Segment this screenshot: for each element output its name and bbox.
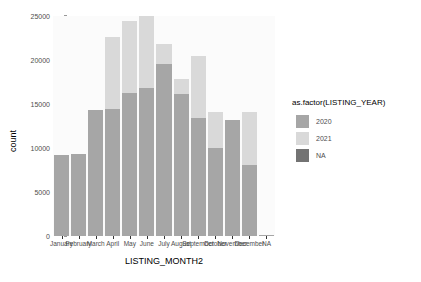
bar-group[interactable] <box>121 16 138 236</box>
bar-group[interactable] <box>173 16 190 236</box>
legend-entry[interactable]: 2020 <box>292 113 418 130</box>
bar-segment[interactable] <box>122 21 137 93</box>
bar-segment[interactable] <box>139 88 154 236</box>
bar-group[interactable] <box>104 16 121 236</box>
bar-segment[interactable] <box>71 154 86 236</box>
x-axis-tick-mark <box>266 236 267 239</box>
plot-panel <box>53 16 275 236</box>
bar-group[interactable] <box>224 16 241 236</box>
legend-entries: 20202021NA <box>292 113 418 164</box>
legend-swatch <box>296 115 309 128</box>
y-axis-tick-label: 15000 <box>31 101 50 108</box>
bar-segment[interactable] <box>242 112 257 165</box>
x-axis-tick-mark <box>198 236 199 239</box>
x-axis-tick-mark <box>232 236 233 239</box>
x-axis-tick-label: May <box>124 240 136 247</box>
bar-segment[interactable] <box>174 79 189 95</box>
bar-group[interactable] <box>258 16 275 236</box>
x-axis-tick-mark <box>147 236 148 239</box>
legend-label: NA <box>316 152 326 159</box>
bar-group[interactable] <box>70 16 87 236</box>
legend: as.factor(LISTING_YEAR) 20202021NA <box>292 98 418 164</box>
x-axis-tick-mark <box>249 236 250 239</box>
x-axis-tick-labels: JanuaryFebruaryMarchAprilMayJuneJulyAugu… <box>53 240 275 254</box>
x-axis-tick-label: December <box>234 240 264 247</box>
legend-label: 2021 <box>316 135 332 142</box>
legend-swatch <box>296 132 309 145</box>
bar-group[interactable] <box>53 16 70 236</box>
x-axis-tick-mark <box>79 236 80 239</box>
x-axis-tick-mark <box>181 236 182 239</box>
y-axis-tick-label: 25000 <box>31 13 50 20</box>
x-axis-tick-mark <box>215 236 216 239</box>
bar-group[interactable] <box>207 16 224 236</box>
x-axis-title: LISTING_MONTH2 <box>53 256 275 266</box>
bar-segment[interactable] <box>105 37 120 109</box>
legend-label: 2020 <box>316 118 332 125</box>
x-axis-tick-mark <box>113 236 114 239</box>
y-axis-tick-label: 20000 <box>31 57 50 64</box>
bar-segment[interactable] <box>174 94 189 236</box>
bar-segment[interactable] <box>156 44 171 63</box>
chart-root: count 0500010000150002000025000 JanuaryF… <box>0 0 421 282</box>
legend-entry[interactable]: 2021 <box>292 130 418 147</box>
y-axis-ticks: 0500010000150002000025000 <box>14 0 50 282</box>
bar-segment[interactable] <box>54 155 69 236</box>
bar-segment[interactable] <box>191 56 206 118</box>
y-axis-tick-label: 0 <box>46 233 50 240</box>
legend-swatch <box>296 149 309 162</box>
x-axis-tick-mark <box>130 236 131 239</box>
x-axis-tick-mark <box>96 236 97 239</box>
bar-segment[interactable] <box>208 148 223 236</box>
legend-entry[interactable]: NA <box>292 147 418 164</box>
x-axis-tick-label: March <box>87 240 105 247</box>
bar-segment[interactable] <box>88 110 103 236</box>
bar-segment[interactable] <box>122 93 137 236</box>
bar-group[interactable] <box>155 16 172 236</box>
bar-segment[interactable] <box>105 109 120 236</box>
bar-segment[interactable] <box>225 120 240 236</box>
bar-segment[interactable] <box>156 64 171 236</box>
bar-segment[interactable] <box>208 112 223 148</box>
bar-group[interactable] <box>190 16 207 236</box>
x-axis-tick-mark <box>62 236 63 239</box>
bar-group[interactable] <box>138 16 155 236</box>
legend-title: as.factor(LISTING_YEAR) <box>292 98 418 107</box>
y-axis-tick-label: 10000 <box>31 145 50 152</box>
bar-group[interactable] <box>87 16 104 236</box>
bar-segment[interactable] <box>242 165 257 236</box>
bar-group[interactable] <box>241 16 258 236</box>
x-axis-tick-label: July <box>158 240 170 247</box>
bar-series-container <box>53 16 275 236</box>
y-axis-tick-label: 5000 <box>34 189 50 196</box>
x-axis-tick-label: June <box>140 240 154 247</box>
x-axis-tick-mark <box>164 236 165 239</box>
x-axis-tick-label: April <box>106 240 119 247</box>
x-axis-tick-label: NA <box>262 240 271 247</box>
bar-segment[interactable] <box>191 118 206 236</box>
bar-segment[interactable] <box>139 16 154 88</box>
